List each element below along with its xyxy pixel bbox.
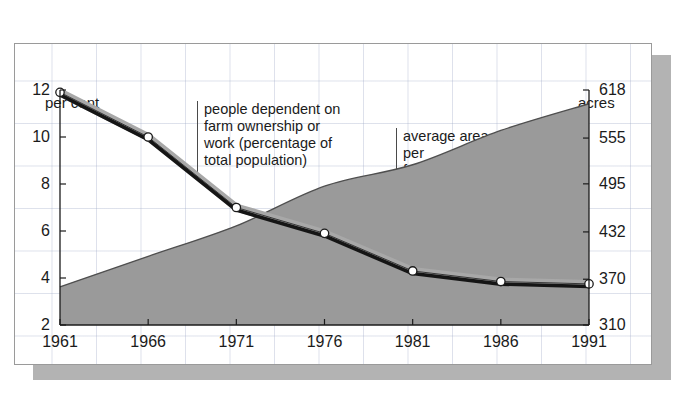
left-axis-tick-label: 6 (15, 222, 50, 240)
x-axis-tick-label: 1976 (307, 333, 343, 351)
x-axis-tick-label: 1966 (130, 333, 166, 351)
left-axis-tick-label: 8 (15, 175, 50, 193)
chart-canvas (60, 90, 589, 325)
right-axis-tick-label: 555 (599, 129, 626, 147)
left-axis-tick-label: 2 (15, 316, 50, 334)
data-point-1986 (497, 277, 505, 285)
right-axis-tick-label: 432 (599, 223, 626, 241)
x-axis-tick-label: 1961 (42, 333, 78, 351)
chart-figure: per cent acres people dependent on farm … (14, 43, 652, 365)
left-axis-tick-label: 12 (15, 81, 50, 99)
x-axis-tick-label: 1991 (571, 333, 607, 351)
data-point-1981 (408, 267, 416, 275)
right-axis-tick-label: 310 (599, 316, 626, 334)
data-point-1976 (320, 229, 328, 237)
right-axis-tick-label: 370 (599, 270, 626, 288)
left-axis-tick-label: 10 (15, 128, 50, 146)
plot-area (60, 90, 589, 325)
right-axis-tick-label: 618 (599, 81, 626, 99)
x-axis-tick-label: 1981 (395, 333, 431, 351)
data-point-1966 (144, 133, 152, 141)
left-axis-tick-label: 4 (15, 269, 50, 287)
data-point-1971 (232, 203, 240, 211)
x-axis-tick-label: 1971 (219, 333, 255, 351)
x-axis-tick-label: 1986 (483, 333, 519, 351)
right-axis-tick-label: 495 (599, 175, 626, 193)
